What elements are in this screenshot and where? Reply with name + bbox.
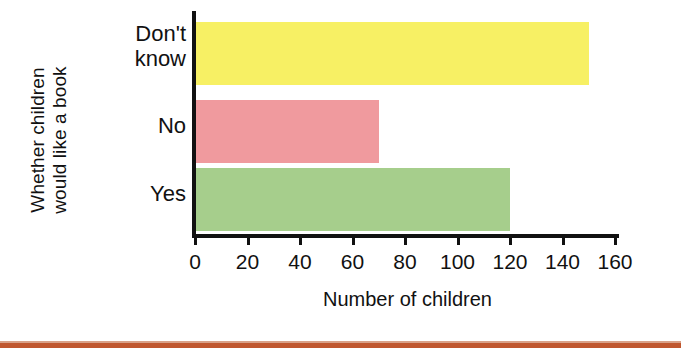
x-axis-tick-label-160: 160 xyxy=(580,250,650,274)
y-tick-label-dont-know-line-2: know xyxy=(90,47,186,72)
bar-no xyxy=(195,100,379,163)
y-tick-label-no-line-1: No xyxy=(90,114,186,139)
y-tick-label-dont-know: Don't know xyxy=(90,22,186,71)
x-axis-tick-20 xyxy=(247,236,250,245)
bar-chart-figure: Whether children would like a book Don't… xyxy=(0,0,681,353)
x-axis-tick-40 xyxy=(299,236,302,245)
y-tick-label-yes: Yes xyxy=(90,182,186,207)
footer-decoration-rule xyxy=(0,341,681,348)
y-axis-line xyxy=(192,11,196,237)
y-tick-label-yes-line-1: Yes xyxy=(90,182,186,207)
x-axis-tick-140 xyxy=(562,236,565,245)
bar-yes xyxy=(195,168,510,231)
plot-area xyxy=(195,12,620,235)
y-tick-label-no: No xyxy=(90,114,186,139)
x-axis-tick-60 xyxy=(352,236,355,245)
footer-rule-main xyxy=(0,343,681,348)
x-axis-tick-160 xyxy=(614,236,617,245)
x-axis-title: Number of children xyxy=(195,288,620,311)
x-axis-tick-120 xyxy=(509,236,512,245)
y-axis-title-line-1: Whether children xyxy=(27,67,49,212)
x-axis-tick-100 xyxy=(457,236,460,245)
x-axis-tick-80 xyxy=(404,236,407,245)
y-tick-label-dont-know-line-1: Don't xyxy=(90,22,186,47)
y-axis-tick-labels: Don't know No Yes xyxy=(90,10,186,235)
y-axis-title: Whether children would like a book xyxy=(23,15,75,265)
bar-dont-know xyxy=(195,22,589,85)
x-axis-tick-0 xyxy=(194,236,197,245)
y-axis-title-line-2: would like a book xyxy=(49,66,71,213)
